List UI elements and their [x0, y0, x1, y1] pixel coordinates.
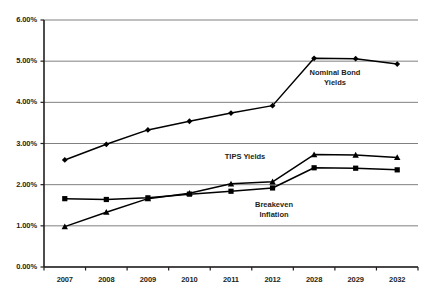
annotation-line: Breakeven	[214, 200, 334, 210]
y-axis-tick-label: 4.00%	[0, 97, 37, 106]
x-axis-tick-label: 2029	[335, 275, 377, 284]
x-axis-tick-label: 2010	[169, 275, 211, 284]
x-axis-tick-label: 2028	[293, 275, 335, 284]
annotation-line: TIPS Yields	[185, 152, 305, 162]
data-point-marker-square	[395, 167, 400, 172]
data-point-marker-square	[353, 166, 358, 171]
data-point-marker-diamond	[145, 127, 151, 133]
y-axis-tick-label: 2.00%	[0, 180, 37, 189]
y-axis-tick-label: 1.00%	[0, 221, 37, 230]
y-axis-tick-label: 0.00%	[0, 262, 37, 271]
annotation-line: Nominal Bond	[275, 68, 395, 78]
nominal-bond-yields-label: Nominal BondYields	[275, 68, 395, 88]
breakeven-inflation-label: BreakevenInflation	[214, 200, 334, 220]
data-point-marker-square	[228, 189, 233, 194]
data-point-marker-square	[187, 192, 192, 197]
data-point-marker-diamond	[187, 118, 193, 124]
x-axis-tick-label: 2008	[86, 275, 128, 284]
data-point-marker-diamond	[62, 157, 68, 163]
y-axis-tick-label: 3.00%	[0, 139, 37, 148]
data-point-marker-diamond	[394, 61, 400, 67]
data-point-marker-square	[270, 185, 275, 190]
x-axis-tick-label: 2007	[44, 275, 86, 284]
data-point-marker-square	[62, 196, 67, 201]
annotation-line: Yields	[275, 78, 395, 88]
tips-yields-label: TIPS Yields	[185, 152, 305, 162]
data-point-marker-square	[312, 165, 317, 170]
x-axis-tick-label: 2032	[376, 275, 418, 284]
x-axis-tick-label: 2012	[252, 275, 294, 284]
data-point-marker-diamond	[103, 141, 109, 147]
x-axis-tick-label: 2011	[210, 275, 252, 284]
annotation-line: Inflation	[214, 210, 334, 220]
data-point-marker-square	[145, 195, 150, 200]
y-axis-tick-label: 6.00%	[0, 15, 37, 24]
chart-container: 0.00%1.00%2.00%3.00%4.00%5.00%6.00% 2007…	[0, 0, 426, 306]
x-axis-tick-label: 2009	[127, 275, 169, 284]
data-point-marker-diamond	[228, 110, 234, 116]
data-point-marker-square	[104, 197, 109, 202]
y-axis-tick-label: 5.00%	[0, 56, 37, 65]
